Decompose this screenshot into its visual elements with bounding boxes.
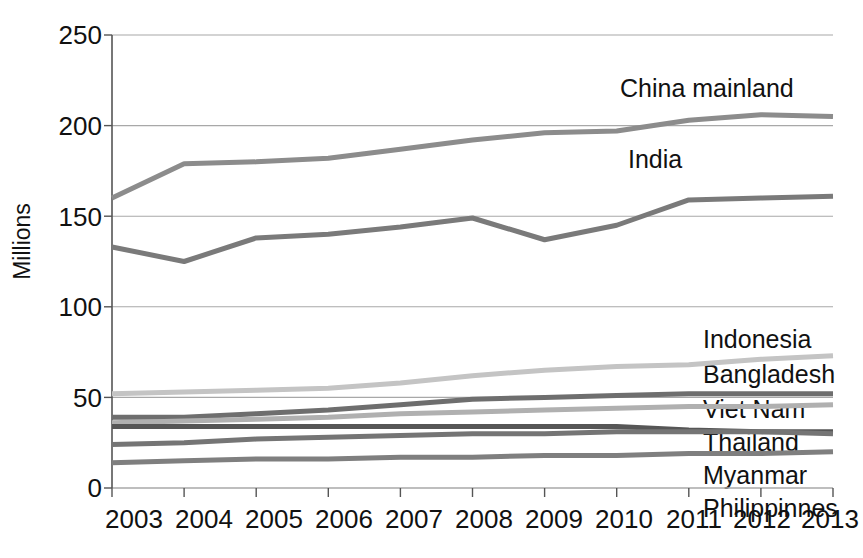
series-line-india — [112, 196, 833, 261]
series-lines — [112, 115, 833, 463]
series-line-indonesia — [112, 356, 833, 394]
x-axis-tick-marks — [112, 488, 833, 497]
series-line-myanmar — [112, 432, 833, 445]
y-axis-tick-marks — [104, 35, 112, 488]
series-line-china-mainland — [112, 115, 833, 198]
series-line-philippinnes — [112, 452, 833, 463]
